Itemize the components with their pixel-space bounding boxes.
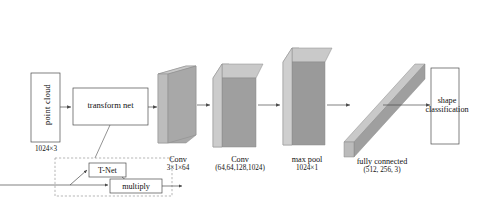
conv1-block — [158, 66, 196, 143]
fc-label-line1: fully connected — [334, 157, 430, 166]
conv2-label: Conv (64,64,128,1024) — [197, 155, 283, 172]
arrow-branch-to-tnet — [70, 170, 87, 185]
tnet-label: T-Net — [89, 166, 126, 175]
maxpool-label-line2: 1024×1 — [283, 164, 331, 172]
maxpool-label: max pool 1024×1 — [283, 155, 331, 172]
conv2-block — [213, 64, 263, 147]
conv2-label-line1: Conv — [197, 155, 283, 164]
leader-transform-to-tnet-group — [95, 125, 110, 158]
maxpool-label-line1: max pool — [283, 155, 331, 164]
transform-net-label: transform net — [73, 101, 148, 111]
conv1-label-line1: Conv — [155, 155, 201, 164]
maxpool-block — [283, 48, 332, 145]
fc-label-line2: (512, 256, 3) — [334, 166, 430, 174]
output-label-line2: classification — [414, 105, 480, 114]
point-cloud-dimension-label: 1024×3 — [25, 145, 67, 153]
pointnet-architecture-diagram: point cloud 1024×3 transform net T-Net m… — [0, 0, 480, 221]
fully-connected-block — [344, 64, 425, 157]
output-label-line1: shape — [414, 96, 480, 105]
point-cloud-label: point cloud — [43, 75, 52, 135]
shape-classification-label: shape classification — [414, 96, 480, 114]
multiply-label: multiply — [110, 182, 162, 191]
diagram-canvas — [0, 0, 480, 221]
fully-connected-label: fully connected (512, 256, 3) — [334, 157, 430, 174]
conv2-label-line2: (64,64,128,1024) — [197, 164, 283, 172]
conv1-label: Conv 3×1×64 — [155, 155, 201, 172]
conv1-label-line2: 3×1×64 — [155, 164, 201, 172]
